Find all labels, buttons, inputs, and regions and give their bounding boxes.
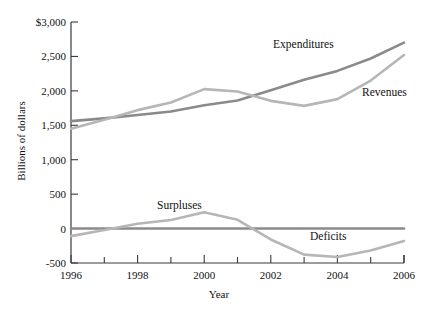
series-label-deficits: Deficits [310, 230, 346, 242]
y-tick-label-3000: $3,000 [10, 16, 66, 28]
x-tick-label-2002: 2002 [260, 269, 282, 281]
y-axis-ticks [71, 22, 78, 263]
series-line-expenditures [71, 43, 404, 121]
x-tick-label-2000: 2000 [193, 269, 215, 281]
x-axis-title: Year [209, 288, 229, 300]
series-label-surpluses: Surpluses [157, 199, 202, 211]
y-tick-label-minus500: -500 [10, 257, 66, 269]
series-label-expenditures: Expenditures [273, 38, 334, 50]
series-label-revenues: Revenues [362, 86, 407, 98]
chart-container: $3,000 2,500 2,000 1,500 1,000 500 0 -50… [0, 0, 421, 311]
x-axis-ticks [71, 255, 404, 263]
y-axis-title: Billions of dollars [15, 86, 27, 196]
x-tick-label-2006: 2006 [393, 269, 415, 281]
x-tick-label-1998: 1998 [127, 269, 149, 281]
x-tick-label-2004: 2004 [326, 269, 348, 281]
x-tick-label-1996: 1996 [60, 269, 82, 281]
series-line-surpluses [71, 212, 404, 257]
data-series-lines [71, 43, 404, 257]
y-tick-label-0: 0 [10, 223, 66, 235]
y-tick-label-2500: 2,500 [10, 50, 66, 62]
